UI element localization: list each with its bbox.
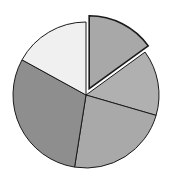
pie-chart bbox=[0, 0, 171, 185]
